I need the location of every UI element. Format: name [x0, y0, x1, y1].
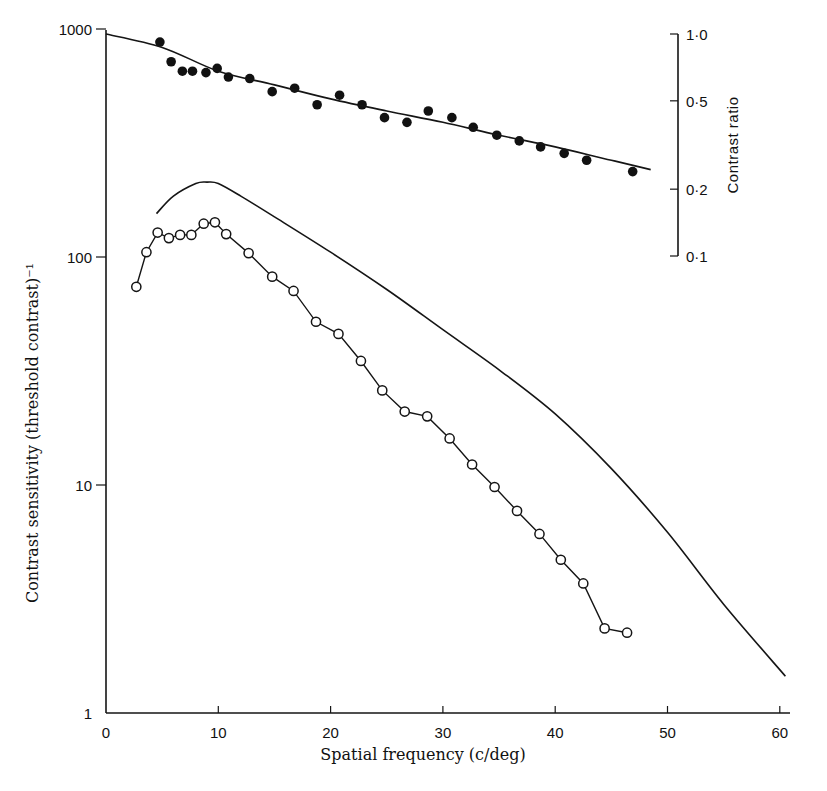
- filled-circle-marker: [628, 167, 638, 177]
- x-tick-label: 30: [435, 724, 452, 741]
- open-circle-marker: [244, 249, 253, 258]
- y-tick-label: 10: [75, 477, 92, 494]
- open-circle-marker: [600, 624, 609, 633]
- plot-area: [106, 34, 785, 676]
- open-circle-marker: [210, 218, 219, 227]
- x-tick-label: 0: [102, 724, 110, 741]
- open-circle-marker: [400, 407, 409, 416]
- open-circle-marker: [142, 248, 151, 257]
- open-circle-marker: [556, 555, 565, 564]
- y2-tick-label: 0·1: [686, 248, 708, 265]
- open-circle-marker: [535, 529, 544, 538]
- series-connector: [136, 222, 627, 632]
- open-circle-marker: [467, 460, 476, 469]
- y2-tick-label: 1·0: [686, 26, 708, 43]
- x-tick-label: 10: [210, 724, 227, 741]
- open-circle-marker: [356, 356, 365, 365]
- filled-circle-marker: [582, 155, 592, 165]
- x-tick-label: 60: [771, 724, 788, 741]
- filled-circle-marker: [312, 100, 322, 110]
- open-circle-marker: [289, 286, 298, 295]
- y-tick-label: 1: [84, 705, 92, 722]
- filled-circle-marker: [424, 106, 434, 116]
- open-circle-marker: [268, 272, 277, 281]
- filled-circle-marker: [188, 66, 198, 76]
- x-tick-label: 20: [322, 724, 339, 741]
- open-circle-marker: [378, 386, 387, 395]
- filled-circle-marker: [380, 113, 390, 123]
- open-circle-marker: [490, 482, 499, 491]
- filled-circle-marker: [447, 113, 457, 123]
- open-circle-marker: [334, 329, 343, 338]
- y-tick-label: 100: [67, 249, 92, 266]
- filled-circle-marker: [166, 57, 176, 67]
- axes: 010203040506011010010000·10·20·51·0: [59, 21, 790, 741]
- open-circle-marker: [445, 434, 454, 443]
- open-circle-marker: [311, 317, 320, 326]
- series-line: [106, 34, 651, 170]
- open-circle-marker: [187, 230, 196, 239]
- filled-circle-marker: [335, 90, 345, 100]
- y2-tick-label: 0·2: [686, 181, 708, 198]
- filled-circle-marker: [402, 118, 412, 128]
- open-circle-marker: [176, 230, 185, 239]
- open-circle-marker: [153, 228, 162, 237]
- chart-canvas: 010203040506011010010000·10·20·51·0 Spat…: [0, 0, 827, 791]
- filled-circle-marker: [267, 87, 277, 97]
- filled-circle-marker: [201, 68, 211, 78]
- y-axis-title: Contrast sensitivity (threshold contrast…: [23, 263, 42, 603]
- x-tick-label: 50: [659, 724, 676, 741]
- y-tick-label: 1000: [59, 21, 92, 38]
- open-circle-marker: [199, 219, 208, 228]
- open-circle-marker: [164, 234, 173, 243]
- open-circle-marker: [579, 579, 588, 588]
- y2-axis-title: Contrast ratio: [724, 96, 741, 193]
- open-circle-marker: [222, 230, 231, 239]
- open-circle-marker: [512, 506, 521, 515]
- filled-circle-marker: [178, 66, 188, 76]
- open-circle-marker: [423, 412, 432, 421]
- open-circle-marker: [132, 282, 141, 291]
- x-tick-label: 40: [547, 724, 564, 741]
- x-axis-title: Spatial frequency (c/deg): [320, 745, 525, 764]
- y2-tick-label: 0·5: [686, 93, 708, 110]
- open-circle-marker: [622, 628, 631, 637]
